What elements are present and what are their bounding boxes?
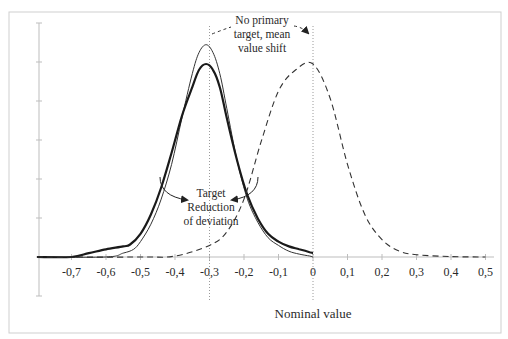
chart-svg: -0,7-0,6-0,5-0,4-0,3-0,2-0,100,10,20,30,… — [0, 0, 508, 339]
x-tick-label: -0,4 — [166, 265, 185, 279]
x-tick-label: 0,4 — [444, 265, 459, 279]
x-tick-label: -0,2 — [235, 265, 254, 279]
annotation-no-primary-target-line2: target, mean — [234, 28, 291, 41]
x-tick-label: -0,6 — [97, 265, 116, 279]
annotation-target-line3: of deviation — [183, 215, 238, 227]
annotation-no-primary-target-line3: value shift — [238, 42, 287, 54]
annotation-no-primary-target-line1: No primary — [235, 14, 289, 27]
x-tick-label: -0,7 — [62, 265, 81, 279]
x-tick-label: 0,3 — [409, 265, 424, 279]
x-tick-label: 0,1 — [340, 265, 355, 279]
x-tick-label: -0,5 — [131, 265, 150, 279]
x-tick-label: -0,1 — [269, 265, 288, 279]
annotation-target-line1: Target — [197, 187, 227, 200]
chart: -0,7-0,6-0,5-0,4-0,3-0,2-0,100,10,20,30,… — [0, 0, 508, 339]
annotation-target-line2: Reduction — [187, 201, 235, 213]
chart-frame — [9, 12, 501, 333]
x-axis-label: Nominal value — [275, 306, 352, 321]
x-tick-label: 0,2 — [375, 265, 390, 279]
x-tick-label: 0,5 — [478, 265, 493, 279]
